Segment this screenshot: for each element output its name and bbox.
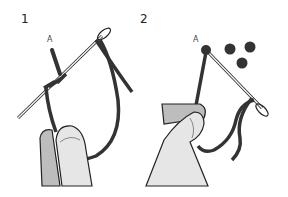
knot-finished-illustration <box>144 0 288 197</box>
needle-wrap-illustration <box>0 0 144 197</box>
step-1-panel: 1 A <box>0 0 144 197</box>
step-2-panel: 2 A <box>144 0 288 197</box>
